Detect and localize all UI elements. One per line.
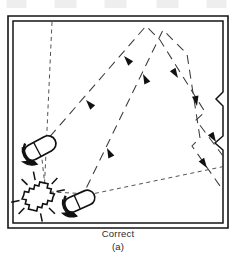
arrowhead-icon — [122, 54, 134, 66]
caption-main-text: Correct — [0, 228, 236, 239]
sparkle-body — [19, 179, 57, 214]
arrowhead-icon — [199, 158, 210, 170]
sparkle-lamp — [4, 163, 73, 230]
figure-caption: Correct (a) — [0, 228, 236, 252]
ray-paths — [40, 26, 226, 201]
ray-path-lower — [80, 30, 220, 201]
sight-line-horizontal — [50, 166, 226, 194]
sight-line-vertical — [44, 22, 52, 196]
arrowhead-icon — [84, 98, 96, 110]
arrowhead-icon — [170, 68, 181, 80]
ray-arrowheads — [84, 54, 219, 170]
arrowhead-icon — [104, 147, 114, 159]
lighting-plan-diagram — [0, 0, 236, 261]
sight-lines — [41, 22, 226, 196]
caption-sub-label: (a) — [0, 241, 236, 252]
figure-root: Correct (a) — [0, 0, 236, 261]
arrowhead-icon — [192, 96, 200, 107]
spotlight-upper-left — [15, 130, 61, 170]
